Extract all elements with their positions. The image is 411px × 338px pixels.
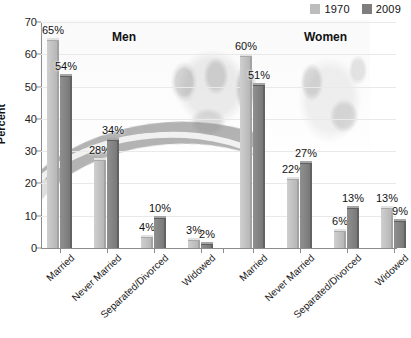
x-axis-label-widowed: Widowed bbox=[373, 252, 411, 288]
x-tick bbox=[201, 248, 202, 253]
y-tick-label: 60 bbox=[25, 48, 37, 60]
y-tick-label: 40 bbox=[25, 113, 37, 125]
bar-value-label: 51% bbox=[248, 69, 270, 81]
bar-value-label: 9% bbox=[392, 205, 408, 217]
bar-value-label: 13% bbox=[376, 192, 398, 204]
x-tick bbox=[300, 248, 301, 253]
x-tick bbox=[394, 248, 395, 253]
x-axis-label-married: Married bbox=[44, 252, 76, 283]
bar-side-face bbox=[404, 222, 406, 248]
bar-women-2009-separated-divorced bbox=[347, 206, 359, 248]
bar-men-2009-married bbox=[60, 74, 72, 248]
y-tick-label: 20 bbox=[25, 177, 37, 189]
bar-women-1970-married bbox=[240, 54, 252, 248]
bar-men-2009-widowed bbox=[201, 242, 213, 248]
group-heading-women: Women bbox=[304, 30, 347, 44]
y-tick-label: 0 bbox=[31, 242, 37, 254]
bar-men-1970-never-married bbox=[94, 158, 106, 248]
bar-value-label: 65% bbox=[42, 24, 64, 36]
gridline bbox=[41, 22, 396, 23]
bar-men-1970-widowed bbox=[188, 238, 200, 248]
bar-women-2009-married bbox=[253, 83, 265, 248]
x-tick bbox=[223, 248, 224, 253]
x-tick bbox=[253, 248, 254, 253]
legend-label-1970: 1970 bbox=[324, 3, 349, 15]
bar-side-face bbox=[211, 245, 213, 248]
y-tick-label: 70 bbox=[25, 16, 37, 28]
x-tick bbox=[60, 248, 61, 253]
bar-women-1970-never-married bbox=[287, 177, 299, 248]
bar-side-face bbox=[263, 86, 265, 248]
group-heading-men: Men bbox=[112, 30, 136, 44]
bar-side-face bbox=[357, 209, 359, 248]
y-tick-label: 30 bbox=[25, 145, 37, 157]
bar-value-label: 6% bbox=[332, 215, 348, 227]
x-axis-label-married: Married bbox=[237, 252, 269, 283]
bar-side-face bbox=[297, 180, 299, 248]
gridline bbox=[41, 87, 396, 88]
x-axis-line bbox=[41, 248, 397, 249]
legend-swatch-2009-icon bbox=[362, 4, 372, 14]
bar-men-1970-separated-divorced bbox=[141, 235, 153, 248]
x-tick bbox=[347, 248, 348, 253]
bar-side-face bbox=[250, 57, 252, 248]
bar-value-label: 4% bbox=[139, 221, 155, 233]
legend: 1970 2009 bbox=[310, 3, 401, 15]
gridline bbox=[41, 54, 396, 55]
y-tick-label: 50 bbox=[25, 81, 37, 93]
bar-value-label: 2% bbox=[199, 228, 215, 240]
legend-item-1970: 1970 bbox=[310, 3, 349, 15]
x-tick bbox=[107, 248, 108, 253]
legend-label-2009: 2009 bbox=[376, 3, 401, 15]
bar-side-face bbox=[57, 41, 59, 248]
y-axis-title: Percent bbox=[0, 104, 7, 144]
bar-value-label: 34% bbox=[102, 124, 124, 136]
legend-item-2009: 2009 bbox=[362, 3, 401, 15]
bar-side-face bbox=[70, 77, 72, 248]
bar-side-face bbox=[164, 219, 166, 248]
bar-side-face bbox=[310, 164, 312, 248]
bar-value-label: 27% bbox=[295, 147, 317, 159]
x-tick bbox=[154, 248, 155, 253]
bar-value-label: 60% bbox=[235, 40, 257, 52]
bar-value-label: 13% bbox=[342, 192, 364, 204]
bar-men-2009-separated-divorced bbox=[154, 216, 166, 248]
bar-value-label: 10% bbox=[149, 202, 171, 214]
bar-side-face bbox=[151, 238, 153, 248]
bar-women-1970-separated-divorced bbox=[334, 229, 346, 248]
bar-chart: 1970 2009 Percent Men Women 010203040506… bbox=[0, 0, 411, 338]
bar-side-face bbox=[104, 161, 106, 248]
y-tick-label: 10 bbox=[25, 210, 37, 222]
bar-value-label: 54% bbox=[55, 60, 77, 72]
bar-women-2009-widowed bbox=[394, 219, 406, 248]
legend-swatch-1970-icon bbox=[310, 4, 320, 14]
bar-women-2009-never-married bbox=[300, 161, 312, 248]
gridline bbox=[41, 119, 396, 120]
x-axis-label-widowed: Widowed bbox=[180, 252, 218, 288]
bar-side-face bbox=[117, 141, 119, 248]
bar-side-face bbox=[344, 232, 346, 248]
bar-men-2009-never-married bbox=[107, 138, 119, 248]
bar-side-face bbox=[198, 241, 200, 248]
